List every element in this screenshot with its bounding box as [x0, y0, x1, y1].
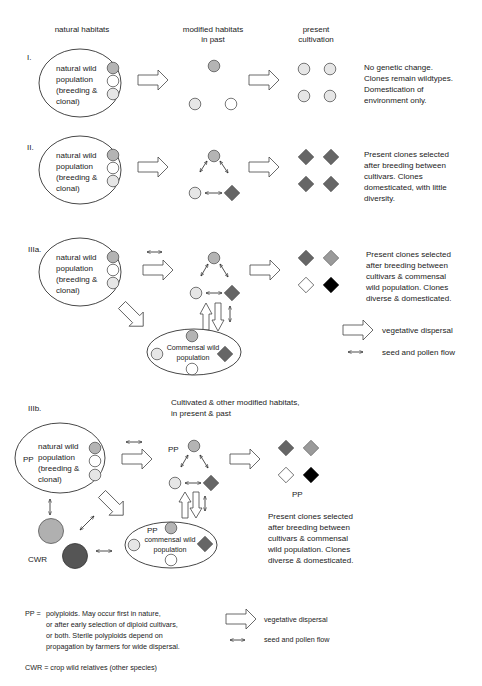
pp-definition: polyploids. May occur first in nature,	[46, 609, 161, 618]
vegetative-dispersal-arrow-diagonal	[95, 487, 130, 522]
wild-pop-text: natural wild	[56, 64, 96, 73]
clone-circle-light	[189, 187, 201, 199]
cultivar-diamond-white	[298, 277, 314, 293]
polyploid-label: PP	[168, 445, 179, 454]
wild-pop-text: clonal)	[56, 97, 80, 106]
cultivar-circle	[298, 63, 310, 75]
scenario-label-IIIa: IIIa.	[28, 245, 41, 254]
clone-circle-light	[107, 277, 119, 289]
vegetative-dispersal-arrow-up	[179, 492, 191, 518]
commensal-label: commensal wild	[144, 535, 195, 544]
vegetative-dispersal-arrow	[122, 449, 152, 469]
clone-circle-medium	[107, 149, 119, 161]
scenario-II-description: diversity.	[364, 194, 395, 203]
vegetative-dispersal-arrow	[249, 70, 279, 90]
commensal-label: Commensal wild	[167, 343, 220, 352]
cultivar-diamond-dark	[224, 285, 240, 301]
seed-pollen-flow-arrow	[220, 264, 228, 277]
cultivar-circle	[298, 90, 310, 102]
wild-pop-text: natural wild	[56, 151, 96, 160]
seed-pollen-flow-arrow	[200, 161, 207, 172]
clone-circle-medium	[186, 330, 198, 342]
vegetative-dispersal-arrow	[250, 260, 280, 280]
pp-definition: or after early selection of diploid cult…	[46, 620, 178, 629]
vegetative-dispersal-arrow	[143, 260, 173, 280]
legend-vegetative-arrow-icon	[343, 320, 373, 340]
cultivar-diamond-medium	[323, 250, 339, 266]
scenario-II: II. natural wild population (breeding & …	[27, 136, 449, 204]
pp-key-label: PP =	[25, 609, 41, 618]
cwr-definition: CWR = crop wild relatives (other species…	[25, 663, 157, 672]
scenario-II-description: domesticated, with little	[364, 183, 447, 192]
scenario-IIIa-description: diverse & domesticated.	[366, 294, 451, 303]
polyploid-label: PP	[292, 490, 303, 499]
cultivar-diamond-dark	[298, 250, 314, 266]
clone-circle-medium	[89, 442, 101, 454]
clone-circle-white	[89, 455, 101, 467]
clone-circle-medium	[208, 150, 220, 162]
scenario-II-description: cultivars. Clones	[364, 172, 423, 181]
cultivar-circle	[324, 90, 336, 102]
cultivar-diamond-dark	[298, 176, 314, 192]
scenario-I: I. natural wild population (breeding & c…	[27, 49, 453, 117]
vegetative-dispersal-arrow-down	[190, 492, 202, 518]
cwr-circle-light	[39, 519, 64, 544]
header-present-cultivation: present	[303, 25, 330, 34]
seed-pollen-flow-arrow	[220, 161, 228, 173]
legend-seed-pollen-label: seed and pollen flow	[382, 348, 455, 357]
vegetative-dispersal-arrow	[249, 157, 279, 177]
wild-pop-text: (breeding &	[56, 275, 98, 284]
vegetative-dispersal-arrow-diagonal	[115, 298, 150, 333]
seed-pollen-flow-arrow	[200, 455, 208, 468]
header-modified-habitats-2: in past	[201, 35, 225, 44]
clone-circle-white	[186, 363, 198, 375]
scenario-I-description: Clones remain wildtypes.	[364, 74, 453, 83]
clone-circle-white	[107, 75, 119, 87]
clone-circle-medium	[107, 62, 119, 74]
vegetative-dispersal-arrow	[138, 70, 168, 90]
scenario-I-description: No genetic change.	[364, 63, 433, 72]
cultivar-diamond-black	[323, 277, 339, 293]
wild-pop-text: population	[56, 162, 93, 171]
seed-pollen-flow-arrow	[201, 264, 208, 276]
scenario-I-description: environment only.	[364, 96, 427, 105]
clone-circle-medium	[165, 522, 177, 534]
legend-vegetative-arrow-icon	[226, 609, 256, 629]
wild-pop-text: (breeding &	[56, 173, 98, 182]
cultivar-diamond-medium	[303, 440, 319, 456]
cultivar-diamond-dark	[278, 440, 294, 456]
scenario-I-description: Domestication of	[364, 85, 424, 94]
seed-pollen-flow-arrow	[181, 455, 188, 467]
clone-circle-light	[107, 88, 119, 100]
wild-pop-text: population	[56, 264, 93, 273]
cultivar-diamond-dark	[323, 149, 339, 165]
scenario-IIIa-description: wild population. Clones	[365, 283, 448, 292]
header-modified-habitats: modified habitats	[183, 25, 243, 34]
vegetative-dispersal-arrow	[138, 157, 168, 177]
clone-circle-medium	[208, 60, 220, 72]
polyploid-label: PP	[147, 526, 158, 535]
vegetative-dispersal-arrow-down	[212, 303, 224, 331]
clone-circle-white	[107, 264, 119, 276]
scenario-IIIb-description: Present clones selected	[268, 512, 353, 521]
header-cultivated-habitats: Cultivated & other modified habitats,	[171, 398, 300, 407]
wild-pop-text: population	[56, 75, 93, 84]
cultivar-diamond-dark	[298, 149, 314, 165]
header-natural-habitats: natural habitats	[55, 25, 110, 34]
wild-pop-text: natural wild	[56, 253, 96, 262]
clone-circle-medium	[188, 440, 200, 452]
scenario-IIIa-description: Present clones selected	[366, 250, 451, 259]
scenario-label-I: I.	[27, 53, 31, 62]
vegetative-dispersal-arrow-up	[200, 303, 212, 330]
scenario-IIIb-description: after breeding between	[268, 523, 350, 532]
clone-circle-white	[107, 162, 119, 174]
legend-vegetative-label: vegetative dispersal	[264, 615, 328, 624]
scenario-IIIa: IIIa. natural wild population (breeding …	[28, 238, 455, 375]
legend-vegetative-label: vegetative dispersal	[382, 326, 453, 335]
cultivar-diamond-black	[303, 467, 319, 483]
scenario-IIIb-description: diverse & domesticated.	[268, 556, 353, 565]
scenario-label-IIIb: IIIb.	[28, 404, 41, 413]
clone-circle-light	[190, 287, 202, 299]
clone-circle-light	[151, 348, 163, 360]
clone-circle-light	[169, 477, 181, 489]
